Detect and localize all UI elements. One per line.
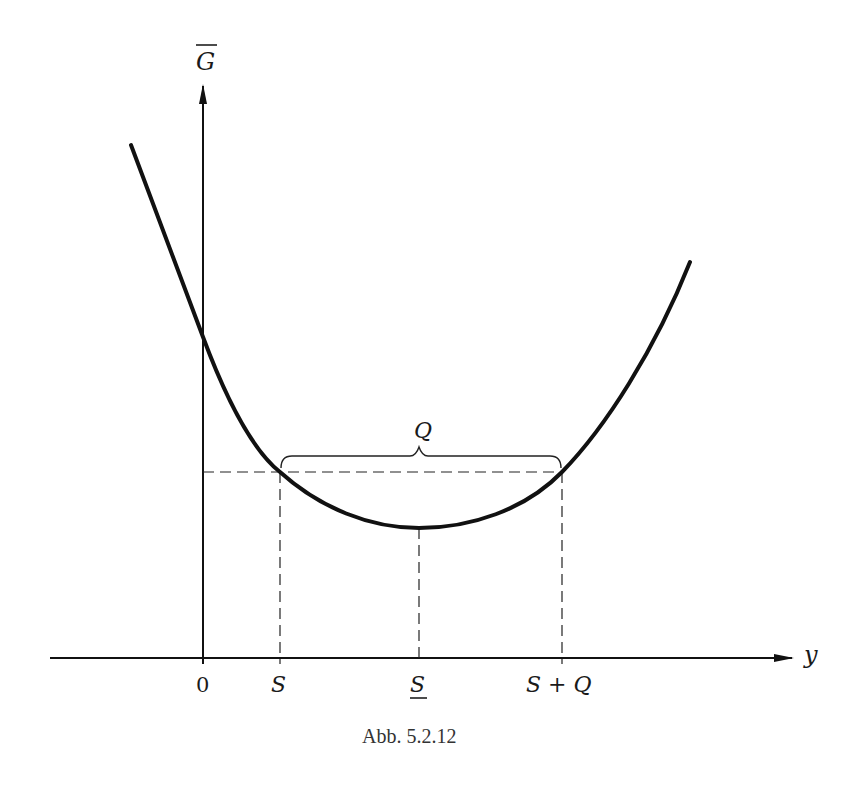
tick-label-s: S [271, 672, 286, 697]
figure-caption: Abb. 5.2.12 [362, 725, 456, 747]
x-axis-label: y [803, 641, 818, 669]
figure-canvas: G y Q 0 S S S + Q Abb. 5.2.12 [0, 0, 862, 785]
tick-label-s-plus-q: S + Q [526, 672, 592, 697]
y-axis-label: G [196, 45, 217, 76]
dashed-guides [203, 472, 562, 664]
cost-curve [131, 145, 690, 528]
brace-q [281, 447, 561, 468]
svg-text:G: G [196, 48, 215, 76]
svg-text:S: S [410, 672, 425, 697]
tick-label-s-underlined: S [410, 672, 427, 698]
tick-label-0: 0 [196, 673, 209, 697]
brace-label: Q [414, 418, 432, 443]
